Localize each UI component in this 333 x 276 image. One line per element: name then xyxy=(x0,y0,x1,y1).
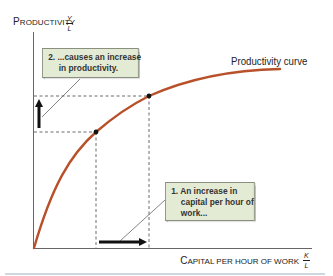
x-fraction-denominator: L xyxy=(304,261,308,269)
y-fraction-denominator: L xyxy=(67,24,71,32)
x-axis-label: CAPITAL PER HOUR OF WORK xyxy=(180,255,299,266)
y-fraction-numerator: Y xyxy=(66,15,73,24)
callout-2-line-2: in productivity. xyxy=(48,62,138,73)
productivity-curve xyxy=(34,69,280,248)
callout-1-line-3: work... xyxy=(171,207,254,218)
x-axis-label-rest: APITAL PER HOUR OF WORK xyxy=(187,257,299,266)
arrow-right-icon xyxy=(99,238,147,246)
leader-line-callout-2 xyxy=(42,79,80,117)
arrow-up-icon xyxy=(35,99,43,128)
x-fraction-numerator: K xyxy=(303,252,310,261)
productivity-curve-diagram: PRODUCTIVITY Y L CAPITAL PER HOUR OF WOR… xyxy=(0,0,333,276)
guide-lines xyxy=(34,96,149,248)
point-after-increase xyxy=(147,94,152,99)
callout-capital-increase: 1. An increase in capital per hour of wo… xyxy=(165,182,255,221)
x-axis-fraction: K L xyxy=(303,252,310,269)
point-initial xyxy=(94,130,99,135)
callout-2-line-1: 2. ...causes an increase xyxy=(48,51,138,62)
callout-1-line-2: capital per hour of xyxy=(171,196,254,207)
curve-label: Productivity curve xyxy=(231,55,307,67)
bottom-divider xyxy=(5,273,325,275)
y-axis-fraction: Y L xyxy=(66,15,73,32)
diagram-graphics xyxy=(0,0,333,276)
leader-line-callout-1 xyxy=(120,200,165,241)
y-axis-label-initial: P xyxy=(13,16,20,27)
callout-1-line-1: 1. An increase in xyxy=(171,185,254,196)
callout-productivity-increase: 2. ...causes an increase in productivity… xyxy=(42,48,139,78)
